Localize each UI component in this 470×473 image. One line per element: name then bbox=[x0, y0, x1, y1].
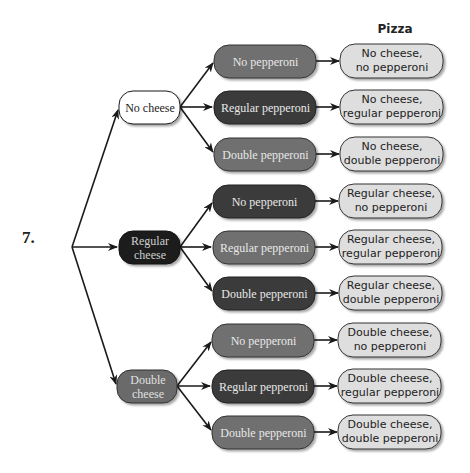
problem-number: 7. bbox=[22, 228, 35, 248]
pepperoni-label: Double pepperoni bbox=[212, 416, 315, 449]
branch-to-no-cheese bbox=[72, 110, 118, 247]
root-branches bbox=[72, 110, 118, 384]
pepperoni-label: Regular pepperoni bbox=[213, 231, 316, 264]
branch bbox=[177, 342, 211, 386]
pepperoni-label: Regular pepperoni bbox=[212, 370, 315, 403]
pizza-label: Regular cheese, no pepperoni bbox=[339, 184, 443, 218]
cheese-label-double: Double cheese bbox=[117, 370, 179, 403]
pizza-arrows bbox=[314, 61, 339, 432]
pizza-label: No cheese, no pepperoni bbox=[340, 44, 444, 78]
pizza-label: No cheese, double pepperoni bbox=[340, 137, 444, 171]
cheese-label-no: No cheese bbox=[119, 91, 181, 124]
pepperoni-label: No pepperoni bbox=[214, 45, 317, 78]
pepperoni-label: Regular pepperoni bbox=[214, 91, 317, 124]
branch bbox=[177, 386, 211, 430]
pizza-label: Double cheese, double pepperoni bbox=[338, 415, 442, 449]
pizza-label: Regular cheese, double pepperoni bbox=[339, 276, 443, 310]
cheese-label-regular: Regular cheese bbox=[119, 231, 181, 264]
cheese-branches bbox=[177, 63, 213, 430]
pizza-label: Double cheese, regular pepperoni bbox=[338, 369, 442, 403]
branch bbox=[180, 247, 212, 291]
pepperoni-label: No pepperoni bbox=[213, 185, 316, 218]
pizza-column-header: Pizza bbox=[370, 22, 420, 36]
branch bbox=[180, 107, 213, 152]
pepperoni-label: Double pepperoni bbox=[214, 138, 317, 171]
branch bbox=[180, 203, 212, 247]
branch bbox=[180, 63, 213, 107]
pizza-label: No cheese, regular pepperoni bbox=[340, 90, 444, 124]
pizza-label: Regular cheese, regular pepperoni bbox=[339, 230, 443, 264]
pizza-label: Double cheese, no pepperoni bbox=[338, 323, 442, 357]
pepperoni-label: Double pepperoni bbox=[213, 277, 316, 310]
pepperoni-label: No pepperoni bbox=[212, 324, 315, 357]
branch-to-double-cheese bbox=[72, 247, 116, 384]
